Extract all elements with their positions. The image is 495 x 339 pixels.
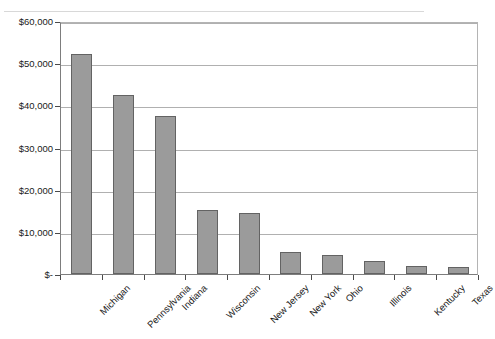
- gridline: [61, 23, 477, 24]
- y-axis-tick-label: $40,000: [19, 101, 53, 111]
- x-axis-label-texas: Texas: [470, 283, 495, 308]
- x-axis-tick-mark: [269, 275, 270, 280]
- y-axis-tick-label: $50,000: [19, 59, 53, 69]
- y-axis-tick-label: $20,000: [19, 186, 53, 196]
- x-axis-tick-mark: [185, 275, 186, 280]
- y-axis-tick-label: $-: [45, 270, 53, 280]
- x-axis-label-kentucky: Kentucky: [433, 283, 468, 318]
- bar-kentucky: [406, 266, 427, 274]
- x-axis-tick-mark: [102, 275, 103, 280]
- y-axis-tick-label: $30,000: [19, 144, 53, 154]
- x-axis-tick-mark: [144, 275, 145, 280]
- bar-new-jersey: [239, 213, 260, 274]
- x-axis-tick-mark: [353, 275, 354, 280]
- bar-ohio: [322, 255, 343, 274]
- x-axis-label-new-jersey: New Jersey: [269, 283, 311, 325]
- x-axis-tick-mark: [478, 275, 479, 280]
- gridline: [61, 65, 477, 66]
- x-axis-tick-mark: [311, 275, 312, 280]
- y-axis-tick-label: $10,000: [19, 228, 53, 238]
- bar-illinois: [364, 261, 385, 274]
- bar-chart-figure: $-$10,000$20,000$30,000$40,000$50,000$60…: [0, 0, 495, 339]
- x-axis-tick-mark: [394, 275, 395, 280]
- x-axis-label-illinois: Illinois: [387, 283, 413, 309]
- bar-michigan: [71, 54, 92, 274]
- y-axis-tick-label: $60,000: [19, 17, 53, 27]
- scan-artifact-rule: [4, 11, 424, 12]
- x-axis-tick-mark: [436, 275, 437, 280]
- x-axis-label-new-york: New York: [308, 283, 343, 318]
- x-axis-label-ohio: Ohio: [344, 283, 365, 304]
- bar-wisconsin: [197, 210, 218, 274]
- x-axis-tick-mark: [60, 275, 61, 280]
- bar-indiana: [155, 116, 176, 274]
- x-axis-label-michigan: Michigan: [98, 283, 132, 317]
- plot-area: [60, 22, 478, 275]
- bar-new-york: [280, 252, 301, 274]
- x-axis-label-wisconsin: Wisconsin: [225, 283, 263, 321]
- bar-texas: [448, 267, 469, 274]
- bar-pennsylvania: [113, 95, 134, 274]
- x-axis-tick-mark: [227, 275, 228, 280]
